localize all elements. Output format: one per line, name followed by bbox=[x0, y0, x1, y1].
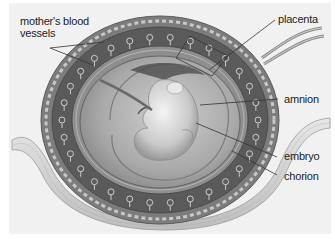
label-embryo: embryo bbox=[284, 150, 319, 162]
placenta-vessel bbox=[262, 28, 322, 58]
label-mothers-blood-vessels: mother's blood vessels bbox=[20, 15, 89, 39]
label-placenta: placenta bbox=[278, 13, 318, 25]
diagram-stage: mother's blood vessels placenta amnion e… bbox=[0, 0, 335, 239]
label-line-2: vessels bbox=[20, 27, 89, 39]
label-line-1: mother's blood bbox=[20, 15, 89, 27]
label-chorion: chorion bbox=[284, 170, 319, 182]
label-amnion: amnion bbox=[284, 93, 319, 105]
